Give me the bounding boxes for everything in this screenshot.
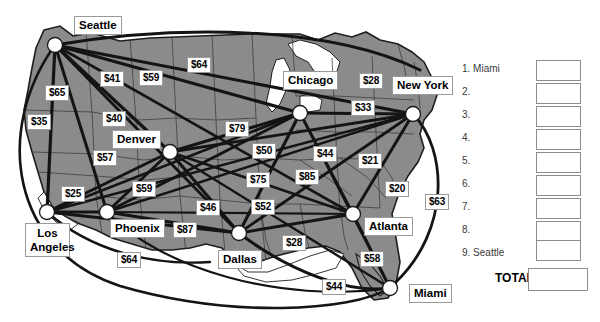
answer-panel: 1. Miami 2. 3. 4. 5. 6. 7. 8. — [462, 54, 600, 284]
answer-box-6[interactable] — [536, 175, 581, 196]
answer-row-7-label: 7. — [462, 200, 470, 214]
fare-tag-f28a: $28 — [359, 73, 383, 89]
fare-tag-f21: $21 — [358, 153, 382, 169]
answer-row-6-label: 6. — [462, 177, 470, 191]
fare-tag-f44a: $44 — [313, 146, 337, 162]
answer-row-8-label: 8. — [462, 223, 470, 237]
answer-box-8[interactable] — [536, 221, 581, 242]
city-label-dallas: Dallas — [218, 250, 262, 269]
fare-tag-f33: $33 — [351, 100, 375, 116]
node-new-york — [406, 107, 421, 122]
answer-box-5[interactable] — [536, 152, 581, 173]
answer-box-3[interactable] — [536, 106, 581, 127]
answer-row-4-label: 4. — [462, 131, 470, 145]
fare-tag-f85: $85 — [295, 169, 319, 185]
node-denver — [163, 145, 178, 160]
city-label-los-angeles: Los Angeles — [25, 223, 70, 257]
answer-box-4[interactable] — [536, 129, 581, 150]
fare-tag-f59b: $59 — [132, 181, 156, 197]
total-box[interactable] — [528, 268, 588, 291]
answer-row-2-label: 2. — [462, 85, 470, 99]
fare-tag-f46: $46 — [196, 200, 220, 216]
node-miami — [383, 281, 398, 296]
fare-tag-f64b: $64 — [117, 252, 141, 268]
fare-tag-f25: $25 — [61, 186, 85, 202]
fare-tag-f40: $40 — [102, 111, 126, 127]
node-los-angeles — [40, 205, 55, 220]
answer-row-3-label: 3. — [462, 108, 470, 122]
city-label-los-angeles-line2: Angeles — [30, 241, 75, 253]
fare-tag-f79: $79 — [225, 121, 249, 137]
city-label-chicago: Chicago — [283, 71, 338, 90]
city-label-phoenix: Phoenix — [110, 219, 165, 238]
city-label-atlanta: Atlanta — [364, 217, 413, 236]
fare-tag-f57: $57 — [93, 150, 117, 166]
answer-box-7[interactable] — [536, 198, 581, 219]
fare-tag-f41: $41 — [100, 71, 124, 87]
fare-tag-f58: $58 — [360, 251, 384, 267]
node-dallas — [232, 226, 247, 241]
node-atlanta — [346, 207, 361, 222]
city-label-los-angeles-line1: Los — [37, 227, 57, 239]
answer-box-9[interactable] — [536, 240, 581, 261]
fare-tag-f63: $63 — [425, 194, 449, 210]
answer-box-1[interactable] — [536, 60, 581, 81]
answer-row-5-label: 5. — [462, 154, 470, 168]
answer-row-9-label: 9. Seattle — [462, 246, 504, 260]
city-label-seattle: Seattle — [74, 16, 122, 35]
fare-tag-f50: $50 — [252, 143, 276, 159]
worksheet-canvas: $65 $35 $41 $59 $64 $40 $57 $25 $59 $79 … — [0, 0, 600, 322]
fare-tag-f64a: $64 — [187, 57, 211, 73]
answer-box-2[interactable] — [536, 83, 581, 104]
fare-tag-f65: $65 — [45, 85, 69, 101]
city-label-denver: Denver — [112, 130, 161, 149]
fare-tag-f28b: $28 — [282, 235, 306, 251]
answer-row-1-label: 1. Miami — [462, 62, 500, 76]
fare-tag-f59a: $59 — [139, 70, 163, 86]
fare-tag-f87: $87 — [173, 222, 197, 238]
node-chicago — [293, 106, 308, 121]
fare-tag-f44b: $44 — [322, 279, 346, 295]
city-label-new-york: New York — [392, 76, 453, 95]
node-seattle — [48, 38, 63, 53]
node-phoenix — [100, 205, 115, 220]
fare-tag-f35: $35 — [27, 114, 51, 130]
fare-tag-f75: $75 — [246, 172, 270, 188]
fare-tag-f52: $52 — [251, 199, 275, 215]
fare-tag-f20: $20 — [385, 181, 409, 197]
city-label-miami: Miami — [409, 284, 452, 303]
